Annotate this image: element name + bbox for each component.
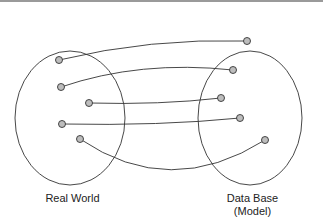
real-world-label: Real World [30, 192, 115, 205]
mapping-line-3 [89, 98, 221, 103]
db-node-5 [262, 137, 269, 144]
database-label: Data Base [210, 192, 295, 205]
database-set [198, 51, 302, 185]
real-node-1 [56, 57, 63, 64]
mapping-line-4 [62, 118, 240, 124]
real-node-3 [86, 100, 93, 107]
mapping-line-2 [61, 67, 233, 87]
real-world-set [15, 51, 125, 185]
real-node-4 [59, 121, 66, 128]
model-label: (Model) [210, 205, 295, 218]
real-node-2 [58, 84, 65, 91]
real-node-5 [77, 136, 84, 143]
db-node-4 [237, 115, 244, 122]
mapping-line-1 [59, 41, 247, 60]
mapping-line-5 [80, 139, 265, 170]
db-node-3 [218, 95, 225, 102]
mapping-diagram [0, 0, 323, 220]
db-node-2 [230, 67, 237, 74]
db-node-1 [244, 38, 251, 45]
